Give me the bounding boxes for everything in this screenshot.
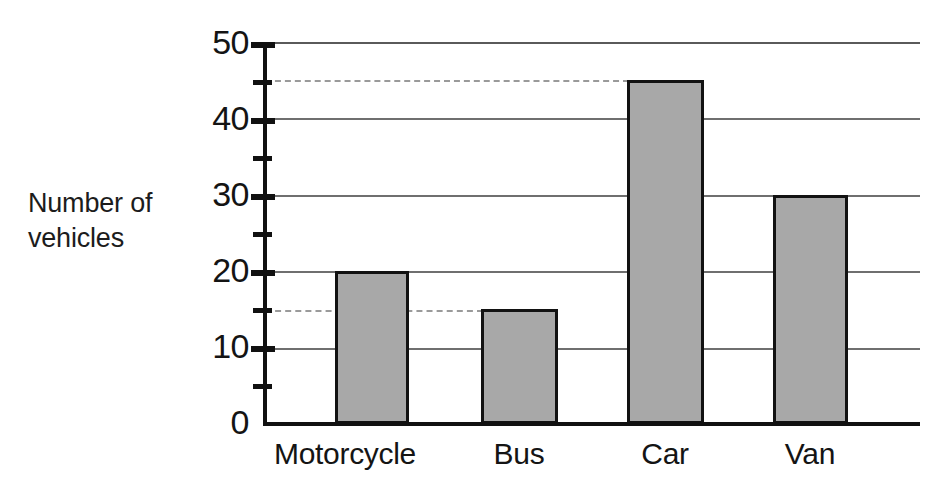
gridline-40 (265, 118, 920, 120)
y-tick-label-20: 20 (169, 253, 249, 287)
y-tick-40 (251, 118, 275, 124)
y-tick-25 (253, 232, 272, 237)
gridline-50 (265, 42, 920, 44)
bar-car[interactable] (627, 80, 704, 424)
y-tick-label-0: 0 (169, 405, 249, 439)
y-axis-title-line-2: vehicles (28, 221, 213, 256)
bar-van[interactable] (773, 195, 848, 424)
x-tick-label-motorcycle: Motorcycle (250, 437, 440, 471)
x-tick-label-car: Car (582, 437, 748, 471)
y-tick-50 (251, 42, 275, 48)
guideline-45 (265, 80, 629, 82)
x-axis-spine (263, 422, 920, 426)
y-tick-30 (251, 194, 275, 200)
bar-bus[interactable] (481, 309, 558, 424)
y-tick-label-40: 40 (169, 101, 249, 135)
plot-area (265, 42, 920, 424)
x-tick-label-van: Van (727, 437, 893, 471)
y-tick-label-10: 10 (169, 329, 249, 363)
x-tick-label-bus: Bus (436, 437, 602, 471)
y-tick-45 (253, 80, 272, 85)
y-tick-10 (251, 346, 275, 352)
y-tick-20 (251, 270, 275, 276)
y-tick-5 (253, 384, 272, 389)
y-tick-15 (253, 308, 272, 313)
bar-chart-figure: Number of vehicles 50 40 30 20 10 0 Moto… (0, 0, 951, 496)
bar-motorcycle[interactable] (335, 271, 409, 424)
y-tick-35 (253, 156, 272, 161)
y-tick-label-50: 50 (169, 25, 249, 59)
y-tick-label-30: 30 (169, 177, 249, 211)
